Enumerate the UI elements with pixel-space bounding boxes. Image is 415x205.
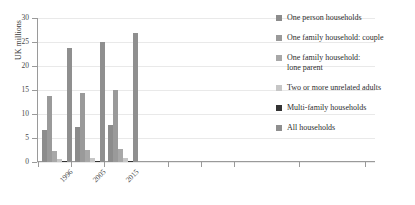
x-tick-label: 2005	[91, 168, 107, 184]
legend-item[interactable]: One person households	[276, 13, 415, 23]
y-tick-label: 30	[10, 14, 29, 22]
y-tick	[32, 162, 37, 163]
legend-item-label: One person households	[287, 13, 362, 23]
bar-chart: UK millions 051015202530 199620052015 On…	[0, 0, 415, 205]
x-tick-label: 1996	[58, 168, 74, 184]
legend-swatch-icon	[276, 85, 282, 91]
legend-item-label: All households	[287, 123, 335, 133]
gridline	[37, 162, 375, 163]
legend-item[interactable]: All households	[276, 123, 415, 133]
legend-item[interactable]: Multi-family households	[276, 103, 415, 113]
y-tick-label: 5	[10, 134, 29, 142]
y-tick-label: 15	[10, 86, 29, 94]
bar	[67, 48, 72, 162]
legend-item[interactable]: One family household: couple	[276, 33, 415, 43]
y-tick-label: 0	[10, 158, 29, 166]
x-tick	[71, 162, 72, 167]
x-tick	[234, 162, 235, 167]
x-tick	[38, 162, 39, 167]
x-tick	[104, 162, 105, 167]
legend-item[interactable]: Two or more unrelated adults	[276, 83, 415, 93]
legend-swatch-icon	[276, 35, 282, 41]
legend-item-label: Multi-family households	[287, 103, 366, 113]
bar	[133, 33, 138, 162]
x-tick	[365, 162, 366, 167]
plot-area	[37, 18, 230, 162]
y-tick-label: 10	[10, 110, 29, 118]
legend-item[interactable]: One family household: lone parent	[276, 53, 415, 72]
legend-swatch-icon	[276, 55, 282, 61]
bar	[100, 42, 105, 162]
x-tick	[168, 162, 169, 167]
legend-item-label: One family household: lone parent	[287, 53, 360, 72]
legend-swatch-icon	[276, 125, 282, 131]
x-tick-label: 2015	[124, 168, 140, 184]
x-tick	[299, 162, 300, 167]
legend-item-label: One family household: couple	[287, 33, 384, 43]
legend-item-label: Two or more unrelated adults	[287, 83, 381, 93]
legend-swatch-icon	[276, 15, 282, 21]
y-tick-label: 25	[10, 38, 29, 46]
legend-swatch-icon	[276, 105, 282, 111]
legend: One person householdsOne family househol…	[276, 13, 415, 143]
y-tick-label: 20	[10, 62, 29, 70]
x-tick	[201, 162, 202, 167]
